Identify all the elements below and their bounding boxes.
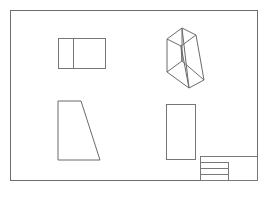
- drawing-sheet: [0, 0, 273, 197]
- view-top-view-rectangle[interactable]: [167, 105, 196, 160]
- drawing-canvas[interactable]: [0, 0, 273, 197]
- front-view-outline: [59, 39, 106, 69]
- view-front-view-split-rectangle[interactable]: [59, 39, 106, 69]
- top-view-outline: [167, 105, 196, 160]
- sheet-background: [0, 0, 273, 197]
